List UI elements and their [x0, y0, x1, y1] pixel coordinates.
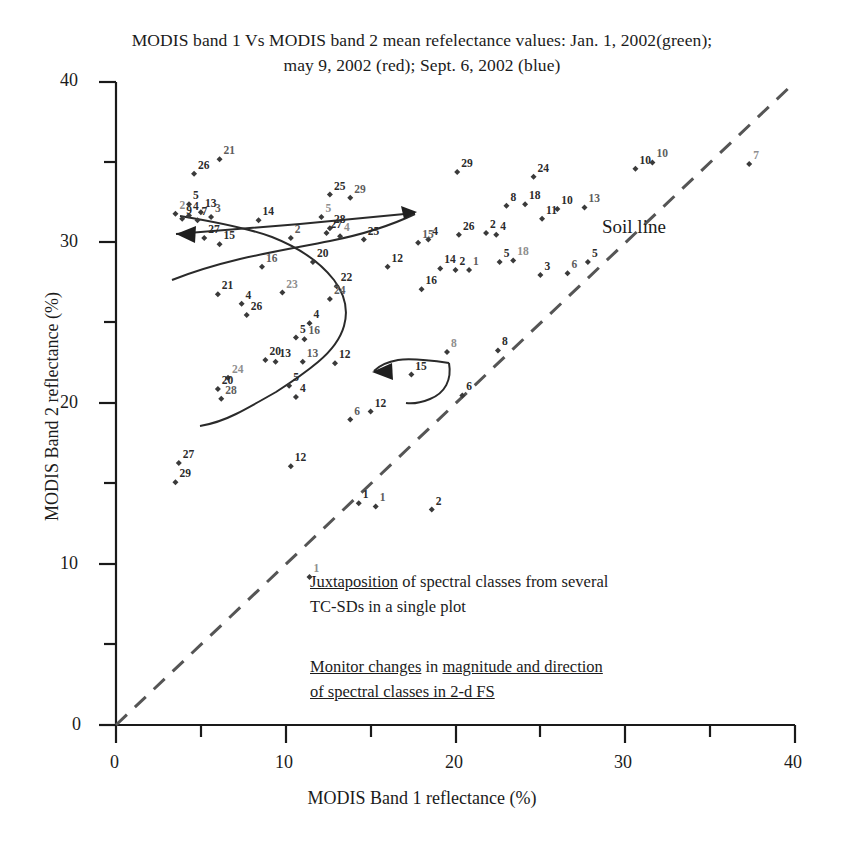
data-point-label: 13: [307, 348, 319, 360]
data-point: [347, 195, 353, 201]
y-tick-10: 10: [60, 553, 78, 574]
data-point: [215, 291, 221, 297]
data-point-label: 1: [363, 489, 369, 501]
data-point-label: 4: [432, 226, 438, 238]
data-point-label: 26: [198, 160, 210, 172]
x-tick-0: 0: [110, 752, 119, 773]
note-monitor-keyword-a: Monitor changes: [310, 657, 421, 676]
trajectory-curves: [172, 213, 450, 426]
data-point: [483, 230, 489, 236]
data-point-label: 4: [300, 383, 306, 395]
data-point-label: 2: [295, 224, 301, 236]
data-point-label: 2: [460, 256, 466, 268]
data-point: [503, 203, 509, 209]
data-point-label: 26: [251, 301, 263, 313]
data-point-label: 1: [314, 563, 320, 575]
data-point: [585, 259, 591, 265]
data-point-label: 14: [263, 206, 275, 218]
data-point-label: 6: [572, 259, 578, 271]
data-point: [293, 394, 299, 400]
data-point: [239, 301, 245, 307]
data-point-label: 8: [451, 338, 457, 350]
data-point: [288, 463, 294, 469]
data-point: [415, 240, 421, 246]
data-point-label: 4: [193, 201, 199, 213]
scatter-plot-figure: MODIS band 1 Vs MODIS band 2 mean refele…: [0, 0, 844, 848]
data-point-label: 3: [215, 203, 221, 215]
data-point: [256, 217, 262, 223]
data-point-label: 12: [339, 349, 351, 361]
lower-arc-tail: [406, 363, 450, 403]
data-point-label: 24: [538, 163, 550, 175]
data-point: [746, 161, 752, 167]
data-point: [323, 230, 329, 236]
y-tick-0: 0: [72, 714, 81, 735]
data-point-label: 15: [224, 230, 236, 242]
data-point: [288, 235, 294, 241]
note-juxtaposition-line-2: TC-SDs in a single plot: [310, 595, 608, 620]
data-point: [493, 232, 499, 238]
data-point: [456, 232, 462, 238]
data-point-label: 11: [546, 205, 557, 217]
data-point: [453, 267, 459, 273]
data-point-label: 5: [504, 248, 510, 260]
x-tick-40: 40: [784, 752, 802, 773]
data-point-label: 14: [444, 254, 456, 266]
data-point-label: 7: [201, 206, 207, 218]
data-point-label: 4: [344, 222, 350, 234]
x-axis-label: MODIS Band 1 reflectance (%): [0, 788, 844, 809]
data-point: [191, 171, 197, 177]
plot-canvas: [0, 0, 844, 848]
note-monitor-line-1: Monitor changes in magnitude and directi…: [310, 655, 603, 680]
data-point: [218, 396, 224, 402]
arrow-head-left-17: [176, 226, 196, 243]
data-point-label: 28: [225, 385, 237, 397]
data-point-label: 27: [183, 449, 195, 461]
soil-line-label: Soil line: [602, 216, 666, 238]
data-point: [632, 166, 638, 172]
y-tick-30: 30: [60, 231, 78, 252]
data-point-label: 21: [224, 145, 236, 157]
data-point-label: 2: [179, 200, 185, 212]
data-point: [279, 290, 285, 296]
data-point-label: 12: [375, 398, 387, 410]
data-point: [208, 214, 214, 220]
data-point: [347, 417, 353, 423]
data-point-label: 29: [461, 158, 473, 170]
data-point-label: 16: [308, 325, 320, 337]
data-point-label: 16: [266, 253, 278, 265]
data-point: [361, 237, 367, 243]
data-point: [327, 296, 333, 302]
data-point: [429, 507, 435, 513]
data-point-label: 15: [415, 361, 427, 373]
data-point: [301, 336, 307, 342]
data-point-label: 12: [392, 253, 404, 265]
data-point: [495, 347, 501, 353]
data-point: [327, 192, 333, 198]
data-point: [531, 174, 537, 180]
data-point: [293, 335, 299, 341]
data-point-label: 9: [186, 205, 192, 217]
data-point-label: 23: [286, 279, 298, 291]
data-point: [444, 349, 450, 355]
data-point: [582, 204, 588, 210]
data-point: [466, 267, 472, 273]
data-point: [497, 259, 503, 265]
data-point: [300, 359, 306, 365]
data-point: [539, 216, 545, 222]
x-tick-20: 20: [445, 752, 463, 773]
note-monitor-line-2: of spectral classes in 2-d FS: [310, 680, 603, 705]
data-point: [437, 265, 443, 271]
data-point: [368, 409, 374, 415]
note-monitor-connector: in: [421, 657, 442, 676]
data-point-label: 26: [463, 221, 475, 233]
data-point-label: 5: [325, 203, 331, 215]
data-point-label: 27: [208, 224, 220, 236]
data-point: [318, 214, 324, 220]
note-juxtaposition-line-1: Juxtaposition of spectral classes from s…: [310, 570, 608, 595]
data-point: [176, 460, 182, 466]
data-point-label: 24: [232, 364, 244, 376]
data-point: [262, 357, 268, 363]
data-point: [201, 235, 207, 241]
data-point: [172, 211, 178, 217]
